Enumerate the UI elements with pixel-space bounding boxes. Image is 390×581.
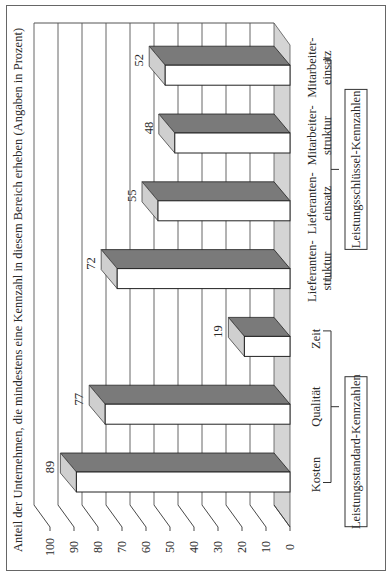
bar-top-face <box>142 182 290 201</box>
group-label: Leistungsschlüssel-Kennzahlen <box>349 90 363 248</box>
category-label-line: struktur <box>320 251 334 291</box>
category-label-line: Mitarbeiter- <box>305 38 319 98</box>
bar-value-label: 77 <box>72 393 86 406</box>
bar-value-label: 52 <box>132 54 146 66</box>
y-axis-label: Anteil der Unternehmen, die mindestens e… <box>11 28 25 552</box>
bar-value-label: 48 <box>142 122 156 135</box>
category-label: Kosten <box>309 456 323 492</box>
bar-front-face <box>117 269 290 289</box>
bar-value-label: 19 <box>211 325 225 338</box>
category-label-line: einsatz <box>320 186 334 221</box>
y-tick-label: 40 <box>187 541 201 553</box>
bar-front-face <box>175 133 290 153</box>
y-tick-label: 80 <box>91 541 105 553</box>
bar-top-face <box>60 453 290 472</box>
bar-front-face <box>158 201 290 221</box>
bar-top-face <box>89 385 290 404</box>
category-label-line: Lieferanten- <box>305 240 319 302</box>
y-tick-label: 70 <box>115 541 129 553</box>
y-tick-label: 50 <box>163 541 177 553</box>
bar-front-face <box>165 65 290 85</box>
bar: 77 <box>72 385 290 424</box>
bar-value-label: 55 <box>125 190 139 203</box>
category-label-line: Lieferanten- <box>305 172 319 234</box>
category-label-line: Qualität <box>309 386 323 427</box>
category-label-line: einsatz <box>320 50 334 85</box>
bar: 72 <box>84 250 290 289</box>
y-tick-label: 20 <box>235 541 249 553</box>
y-tick-label: 60 <box>139 541 153 553</box>
y-tick-label: 10 <box>259 541 273 553</box>
group-label: Leistungsstandard-Kennzahlen <box>349 374 363 530</box>
bar-front-face <box>105 404 290 424</box>
category-label: Qualität <box>309 386 323 427</box>
bar-front-face <box>244 336 290 356</box>
bar-top-face <box>159 114 290 133</box>
y-tick-label: 0 <box>283 544 297 550</box>
y-tick-label: 100 <box>43 538 57 556</box>
bar-top-face <box>101 250 290 269</box>
category-label-line: Zeit <box>309 328 323 349</box>
bar-value-label: 72 <box>84 257 98 270</box>
y-tick-label: 30 <box>211 541 225 553</box>
bar: 89 <box>43 453 290 492</box>
bar-top-face <box>149 46 290 65</box>
bar-value-label: 89 <box>43 461 57 474</box>
category-label-line: struktur <box>320 115 334 155</box>
bar-front-face <box>76 472 290 492</box>
chart: 89771972554852 0102030405060708090100 Ko… <box>0 0 390 581</box>
category-label-line: Kosten <box>309 456 323 492</box>
category-label-line: Mitarbeiter- <box>305 105 319 165</box>
category-label: Zeit <box>309 328 323 349</box>
y-tick-label: 90 <box>67 541 81 553</box>
